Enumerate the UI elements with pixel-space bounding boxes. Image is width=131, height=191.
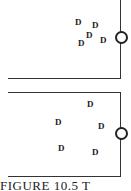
- particle-d: D: [100, 36, 107, 45]
- bottom-panel-bottom-wall: [8, 176, 121, 177]
- particle-d: D: [87, 100, 94, 109]
- particle-d: D: [78, 39, 85, 48]
- top-panel-pore-circle-icon: [115, 31, 128, 44]
- bottom-panel-top-wall: [8, 92, 121, 93]
- particle-d: D: [92, 148, 99, 157]
- figure-caption: FIGURE 10.5 T: [0, 178, 90, 191]
- bottom-panel-pore-circle-icon: [115, 127, 128, 140]
- particle-d: D: [75, 18, 82, 27]
- particle-d: D: [86, 31, 93, 40]
- particle-d: D: [58, 144, 65, 153]
- particle-d: D: [92, 21, 99, 30]
- particle-d: D: [55, 118, 62, 127]
- top-panel-bottom-wall: [8, 78, 121, 79]
- particle-d: D: [98, 122, 105, 131]
